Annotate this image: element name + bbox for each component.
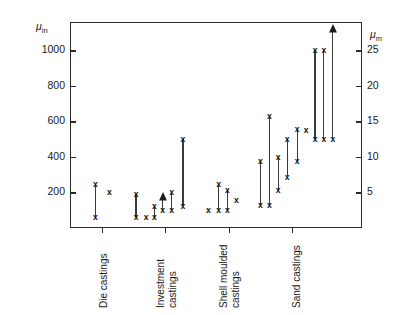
data-point-marker: x xyxy=(216,179,221,188)
x-tick xyxy=(165,228,166,233)
y-tick-left xyxy=(70,192,76,193)
data-point-marker: x xyxy=(93,213,98,222)
data-point-marker: x xyxy=(295,156,300,165)
data-point-marker: x xyxy=(267,112,272,121)
left-axis-unit: μin xyxy=(36,20,48,35)
data-point-marker: x xyxy=(267,201,272,210)
data-point-marker: x xyxy=(234,195,239,204)
data-point-marker: x xyxy=(216,206,221,215)
data-point-marker: x xyxy=(169,206,174,215)
data-point-marker: x xyxy=(152,202,157,211)
y-ticklabel-left: 600 xyxy=(25,114,65,126)
y-tick-left xyxy=(70,86,76,87)
plot-area xyxy=(70,22,362,228)
data-point-marker: x xyxy=(258,201,263,210)
data-point-marker: x xyxy=(295,124,300,133)
data-point-marker: x xyxy=(258,156,263,165)
data-point-marker: x xyxy=(152,213,157,222)
data-point-marker: x xyxy=(169,188,174,197)
range-bar xyxy=(260,161,261,205)
y-tick-right xyxy=(356,121,362,122)
data-point-marker: x xyxy=(285,135,290,144)
data-point-marker: x xyxy=(160,206,165,215)
x-category-label: Shell mouldedcastings xyxy=(218,245,241,308)
y-ticklabel-right: 15 xyxy=(367,114,379,126)
y-tick-right xyxy=(356,86,362,87)
data-point-marker: x xyxy=(276,186,281,195)
x-category-label: Die castings xyxy=(98,254,110,308)
x-tick xyxy=(229,228,230,233)
data-point-marker: x xyxy=(134,190,139,199)
x-category-label: Investmentcastings xyxy=(155,259,178,308)
chart-figure: Surface roughness μin μm 200400600800100… xyxy=(0,0,413,315)
y-tick-left xyxy=(70,157,76,158)
data-point-marker: x xyxy=(304,126,309,135)
data-point-marker: x xyxy=(134,213,139,222)
open-range-arrow-icon xyxy=(328,19,337,37)
data-point-marker: x xyxy=(107,188,112,197)
open-range-arrow-icon xyxy=(158,187,167,205)
range-bar xyxy=(323,50,324,139)
range-bar xyxy=(182,139,183,206)
x-tick xyxy=(102,228,103,233)
x-category-label: Sand castings xyxy=(291,245,303,308)
y-tick-left xyxy=(70,121,76,122)
range-bar xyxy=(332,26,333,140)
y-ticklabel-left: 1000 xyxy=(25,43,65,55)
data-point-marker: x xyxy=(313,135,318,144)
data-point-marker: x xyxy=(144,213,149,222)
data-point-marker: x xyxy=(206,206,211,215)
y-ticklabel-left: 200 xyxy=(25,185,65,197)
data-point-marker: x xyxy=(225,206,230,215)
y-tick-right xyxy=(356,157,362,158)
y-ticklabel-right: 20 xyxy=(367,79,379,91)
data-point-marker: x xyxy=(322,135,327,144)
data-point-marker: x xyxy=(225,186,230,195)
data-point-marker: x xyxy=(313,46,318,55)
y-tick-right xyxy=(356,50,362,51)
data-point-marker: x xyxy=(285,172,290,181)
right-axis-unit: μm xyxy=(370,28,382,43)
y-ticklabel-right: 25 xyxy=(367,43,379,55)
data-point-marker: x xyxy=(276,153,281,162)
data-point-marker: x xyxy=(93,179,98,188)
range-bar xyxy=(269,116,270,205)
y-ticklabel-left: 800 xyxy=(25,79,65,91)
y-tick-left xyxy=(70,50,76,51)
y-ticklabel-right: 10 xyxy=(367,150,379,162)
data-point-marker: x xyxy=(181,202,186,211)
data-point-marker: x xyxy=(181,135,186,144)
data-point-marker: x xyxy=(330,135,335,144)
data-point-marker: x xyxy=(322,46,327,55)
y-tick-right xyxy=(356,192,362,193)
y-ticklabel-right: 5 xyxy=(367,185,373,197)
x-tick xyxy=(292,228,293,233)
y-ticklabel-left: 400 xyxy=(25,150,65,162)
range-bar xyxy=(314,50,315,139)
